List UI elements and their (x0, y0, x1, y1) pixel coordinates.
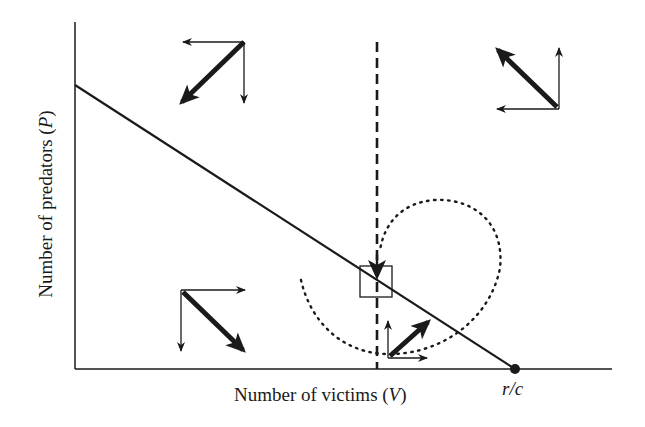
x-axis-label-close: ) (400, 384, 406, 405)
victim-isocline (75, 85, 515, 369)
y-axis-variable: P (35, 117, 56, 129)
vector-upper-left (182, 42, 244, 103)
r-over-c-label: r/c (502, 378, 523, 400)
vector-lower-right (388, 321, 428, 358)
y-axis-label-close: ) (35, 110, 56, 116)
y-axis-label: Number of predators (P) (35, 94, 57, 314)
vector-lower-left (181, 290, 245, 351)
phase-plane-diagram (0, 0, 645, 427)
axes (75, 22, 612, 369)
r-over-c-point (510, 364, 520, 374)
x-axis-label-text: Number of victims ( (234, 384, 389, 405)
vector-upper-right (497, 48, 559, 109)
y-axis-label-text: Number of predators ( (35, 128, 56, 297)
x-axis-variable: V (389, 384, 401, 405)
trajectory-spiral (301, 200, 500, 354)
x-axis-label: Number of victims (V) (234, 384, 407, 406)
